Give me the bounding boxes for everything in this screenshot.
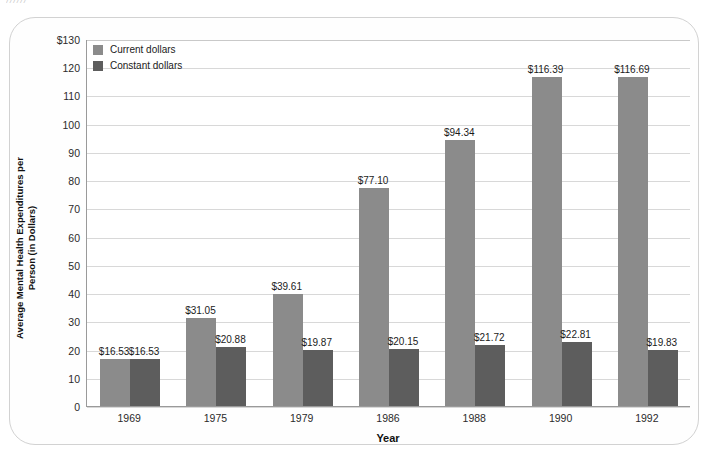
bar-chart: 0102030405060708090100110120$130 1969197… <box>0 0 714 459</box>
x-axis-tick-label: 1975 <box>204 412 227 424</box>
gridline <box>87 40 690 41</box>
bar-value-label: $116.69 <box>614 64 649 75</box>
bar-constant-1979 <box>303 350 333 406</box>
chart-legend: Current dollarsConstant dollars <box>93 42 182 74</box>
legend-label: Current dollars <box>110 44 176 55</box>
bar-value-label: $22.81 <box>560 329 591 340</box>
x-axis-tick-label: 1988 <box>463 412 486 424</box>
x-axis-tick-label: 1979 <box>290 412 313 424</box>
bar-value-label: $16.53 <box>99 346 130 357</box>
legend-swatch-constant <box>93 61 103 71</box>
x-axis-tick-label: 1990 <box>549 412 572 424</box>
bar-constant-1975 <box>216 347 246 406</box>
y-axis-tick-label: 100 <box>20 119 80 131</box>
legend-label: Constant dollars <box>110 60 182 71</box>
x-axis-tick-label: 1992 <box>635 412 658 424</box>
gridline <box>87 125 690 126</box>
bar-value-label: $20.88 <box>215 334 246 345</box>
gridline <box>87 153 690 154</box>
bar-value-label: $31.05 <box>185 305 216 316</box>
x-axis-title: Year <box>86 432 690 444</box>
y-axis-tick-label: $130 <box>20 34 80 46</box>
legend-item: Current dollars <box>93 42 182 57</box>
y-axis-title: Average Mental Health Expenditures per P… <box>14 148 38 348</box>
bar-constant-1988 <box>475 345 505 406</box>
bar-current-1988 <box>445 140 475 406</box>
bar-current-1969 <box>100 359 130 406</box>
bar-constant-1986 <box>389 349 419 406</box>
legend-item: Constant dollars <box>93 58 182 73</box>
bar-current-1990 <box>532 77 562 406</box>
bar-value-label: $116.39 <box>528 64 563 75</box>
bar-value-label: $39.61 <box>271 281 302 292</box>
legend-swatch-current <box>93 45 103 55</box>
y-axis-tick-label: 110 <box>20 90 80 102</box>
bar-value-label: $94.34 <box>444 127 475 138</box>
bar-value-label: $19.83 <box>647 337 678 348</box>
bar-current-1986 <box>359 188 389 406</box>
bar-value-label: $16.53 <box>129 346 160 357</box>
x-axis-tick-label: 1986 <box>376 412 399 424</box>
bar-value-label: $77.10 <box>358 175 389 186</box>
gridline <box>87 407 690 408</box>
y-axis-tick-label: 120 <box>20 62 80 74</box>
bar-constant-1969 <box>130 359 160 406</box>
x-axis-tick-label: 1969 <box>117 412 140 424</box>
bar-constant-1992 <box>648 350 678 406</box>
y-axis-tick-label: 0 <box>20 401 80 413</box>
y-axis-tick-label: 10 <box>20 373 80 385</box>
bar-current-1979 <box>273 294 303 406</box>
bar-current-1992 <box>618 77 648 406</box>
bar-current-1975 <box>186 318 216 406</box>
bar-constant-1990 <box>562 342 592 406</box>
gridline <box>87 96 690 97</box>
bar-value-label: $20.15 <box>388 336 419 347</box>
bar-value-label: $19.87 <box>301 337 332 348</box>
bar-value-label: $21.72 <box>474 332 505 343</box>
plot-area <box>86 40 690 407</box>
